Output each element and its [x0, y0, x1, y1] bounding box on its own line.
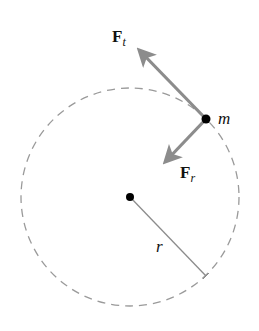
tangential-force-arrow — [140, 51, 206, 119]
center-point — [126, 193, 134, 201]
circular-motion-diagram: Ft Fr m r — [0, 0, 259, 331]
radial-force-arrow — [166, 119, 206, 161]
radius-label: r — [156, 237, 163, 256]
tangential-force-label: Ft — [112, 27, 126, 49]
radial-force-label: Fr — [180, 163, 195, 185]
radius-line — [130, 197, 206, 276]
mass-label: m — [218, 109, 230, 128]
mass-point — [202, 115, 211, 124]
